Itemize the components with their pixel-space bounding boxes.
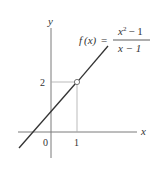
x-axis-label: x xyxy=(140,125,146,137)
origin-label: 0 xyxy=(43,137,48,148)
x-tick-label-1: 1 xyxy=(74,137,79,148)
numerator-rest: − 1 xyxy=(128,25,142,37)
equals-sign: = xyxy=(101,34,107,46)
function-graph: y x 0 1 2 f (x) = x2− 1 x − 1 xyxy=(0,0,158,169)
y-tick-label-2: 2 xyxy=(40,77,45,88)
function-line-upper xyxy=(79,46,108,80)
numerator-exponent: 2 xyxy=(123,25,127,33)
function-arg: (x) xyxy=(84,34,97,47)
hole-marker xyxy=(74,79,79,84)
y-axis-label: y xyxy=(47,15,53,27)
numerator: x2− 1 xyxy=(117,25,143,37)
denominator: x − 1 xyxy=(117,42,141,54)
function-formula: f (x) = x2− 1 x − 1 xyxy=(79,25,150,54)
